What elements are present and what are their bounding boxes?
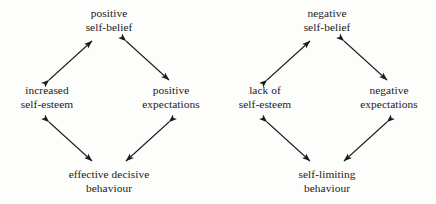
node-effective-decisive-behaviour: effective decisive behaviour xyxy=(0,168,218,195)
node-label-line-2: expectations xyxy=(344,98,434,112)
node-lack-of-self-esteem: lack of self-esteem xyxy=(220,84,310,111)
node-positive-self-belief: positive self-belief xyxy=(0,7,218,34)
node-label-line-1: increased xyxy=(2,84,92,98)
node-label-line-1: positive xyxy=(0,7,218,21)
node-label-line-1: effective decisive xyxy=(0,168,218,182)
node-label-line-2: behaviour xyxy=(0,182,218,196)
node-increased-self-esteem: increased self-esteem xyxy=(2,84,92,111)
node-label-line-1: lack of xyxy=(220,84,310,98)
node-self-limiting-behaviour: self-limiting behaviour xyxy=(218,168,436,195)
node-label-line-1: positive xyxy=(126,84,216,98)
node-positive-expectations: positive expectations xyxy=(126,84,216,111)
node-negative-self-belief: negative self-belief xyxy=(218,7,436,34)
edge-top-left xyxy=(49,41,92,80)
node-label-line-2: self-esteem xyxy=(220,98,310,112)
node-label-line-1: negative xyxy=(344,84,434,98)
positive-cycle-diagram: positive self-belief increased self-este… xyxy=(0,0,218,204)
node-label-line-2: self-esteem xyxy=(2,98,92,112)
node-label-line-2: behaviour xyxy=(218,182,436,196)
node-label-line-2: self-belief xyxy=(0,21,218,35)
node-label-line-1: self-limiting xyxy=(218,168,436,182)
node-label-line-2: expectations xyxy=(126,98,216,112)
edge-bottom-right xyxy=(344,122,387,161)
node-label-line-2: self-belief xyxy=(218,21,436,35)
edge-bottom-right xyxy=(126,122,169,161)
node-label-line-1: negative xyxy=(218,7,436,21)
edge-top-left xyxy=(267,41,310,80)
edge-top-right xyxy=(344,41,387,80)
negative-cycle-diagram: negative self-belief lack of self-esteem… xyxy=(218,0,436,204)
node-negative-expectations: negative expectations xyxy=(344,84,434,111)
edge-bottom-left xyxy=(49,122,92,161)
edge-bottom-left xyxy=(267,122,310,161)
diagram-canvas: positive self-belief increased self-este… xyxy=(0,0,436,204)
edge-top-right xyxy=(126,41,169,80)
